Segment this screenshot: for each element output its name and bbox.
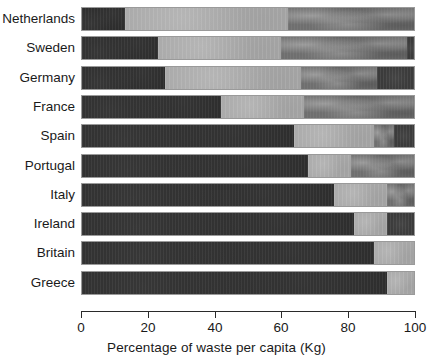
category-label-spain: Spain: [0, 124, 75, 148]
bar-segment-3[interactable]: [351, 155, 414, 177]
bar-segment-1[interactable]: [82, 184, 334, 206]
bar-segment-2[interactable]: [387, 272, 414, 294]
bar-segment-2[interactable]: [165, 67, 301, 89]
bar-row: [81, 7, 415, 31]
category-label-britain: Britain: [0, 241, 75, 265]
stacked-bar[interactable]: [81, 183, 415, 207]
plot-area: [81, 7, 415, 303]
bar-segment-1[interactable]: [82, 8, 125, 30]
category-label-sweden: Sweden: [0, 36, 75, 60]
stacked-bar[interactable]: [81, 124, 415, 148]
x-axis-line: [81, 311, 415, 312]
stacked-bar-chart: NetherlandsSwedenGermanyFranceSpainPortu…: [0, 0, 433, 363]
stacked-bar[interactable]: [81, 36, 415, 60]
bar-row: [81, 95, 415, 119]
bar-segment-1[interactable]: [82, 242, 374, 264]
bar-segment-1[interactable]: [82, 213, 354, 235]
x-axis-title: Percentage of waste per capita (Kg): [0, 340, 433, 355]
bar-segment-2[interactable]: [334, 184, 387, 206]
category-label-italy: Italy: [0, 183, 75, 207]
bar-segment-4[interactable]: [407, 37, 414, 59]
bar-row: [81, 183, 415, 207]
bar-segment-1[interactable]: [82, 67, 165, 89]
bar-row: [81, 271, 415, 295]
bar-row: [81, 66, 415, 90]
stacked-bar[interactable]: [81, 241, 415, 265]
category-label-netherlands: Netherlands: [0, 7, 75, 31]
x-tick-label: 60: [273, 320, 288, 335]
bar-segment-3[interactable]: [374, 125, 394, 147]
x-tick-label: 100: [404, 320, 427, 335]
x-tick-label: 0: [77, 320, 85, 335]
category-label-germany: Germany: [0, 66, 75, 90]
bar-segment-3[interactable]: [281, 37, 407, 59]
bar-segment-3[interactable]: [301, 67, 377, 89]
bar-segment-4[interactable]: [377, 67, 414, 89]
x-tick: [348, 311, 349, 318]
x-tick-label: 40: [207, 320, 222, 335]
category-label-greece: Greece: [0, 271, 75, 295]
x-tick: [81, 311, 82, 318]
x-tick: [415, 311, 416, 318]
stacked-bar[interactable]: [81, 271, 415, 295]
bar-segment-1[interactable]: [82, 272, 387, 294]
x-tick-label: 80: [340, 320, 355, 335]
x-tick-label: 20: [140, 320, 155, 335]
bar-segment-2[interactable]: [294, 125, 374, 147]
bar-segment-2[interactable]: [354, 213, 387, 235]
stacked-bar[interactable]: [81, 66, 415, 90]
bar-segment-1[interactable]: [82, 37, 158, 59]
bar-segment-1[interactable]: [82, 155, 308, 177]
category-label-portugal: Portugal: [0, 154, 75, 178]
stacked-bar[interactable]: [81, 7, 415, 31]
bar-segment-2[interactable]: [308, 155, 351, 177]
bar-row: [81, 241, 415, 265]
bar-segment-3[interactable]: [387, 184, 414, 206]
bar-segment-2[interactable]: [374, 242, 414, 264]
bar-segment-2[interactable]: [125, 8, 288, 30]
category-label-ireland: Ireland: [0, 212, 75, 236]
bar-segment-2[interactable]: [158, 37, 281, 59]
bar-row: [81, 212, 415, 236]
category-label-france: France: [0, 95, 75, 119]
bar-row: [81, 154, 415, 178]
stacked-bar[interactable]: [81, 154, 415, 178]
x-tick: [148, 311, 149, 318]
bar-segment-4[interactable]: [387, 213, 414, 235]
stacked-bar[interactable]: [81, 212, 415, 236]
x-tick: [215, 311, 216, 318]
x-tick: [281, 311, 282, 318]
bar-segment-3[interactable]: [304, 96, 414, 118]
stacked-bar[interactable]: [81, 95, 415, 119]
bar-row: [81, 36, 415, 60]
bar-segment-3[interactable]: [288, 8, 414, 30]
bar-segment-4[interactable]: [394, 125, 414, 147]
bar-segment-2[interactable]: [221, 96, 304, 118]
bar-segment-1[interactable]: [82, 96, 221, 118]
bar-row: [81, 124, 415, 148]
bar-segment-1[interactable]: [82, 125, 294, 147]
